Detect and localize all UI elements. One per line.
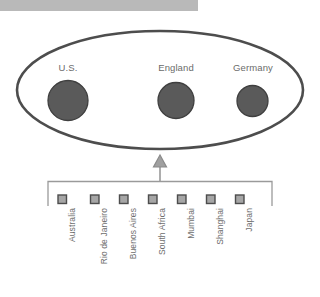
node-circle-germany[interactable] <box>237 86 268 117</box>
node-label-us: U.S. <box>59 62 78 73</box>
city-label-buenos-aires: Buenos Aires <box>128 208 138 259</box>
node-circle-england[interactable] <box>158 83 194 119</box>
node-label-england: England <box>158 62 194 73</box>
city-marker-australia[interactable] <box>58 195 67 204</box>
city-label-australia: Australia <box>67 208 77 242</box>
city-marker-south-africa[interactable] <box>149 195 158 204</box>
city-label-japan: Japan <box>244 208 254 232</box>
city-label-south-africa: South Africa <box>157 208 167 255</box>
city-marker-buenos-aires[interactable] <box>120 195 129 204</box>
city-marker-japan[interactable] <box>236 195 245 204</box>
connector-arrow-head <box>154 155 167 167</box>
city-marker-mumbai[interactable] <box>178 195 187 204</box>
city-marker-rio-de-janeiro[interactable] <box>91 195 100 204</box>
city-label-mumbai: Mumbai <box>186 208 196 239</box>
city-markers <box>58 195 244 204</box>
city-marker-shanghai[interactable] <box>207 195 216 204</box>
node-label-germany: Germany <box>233 62 273 73</box>
diagram-canvas: U.S. England Germany Australia Rio de Ja… <box>0 0 320 297</box>
city-label-rio-de-janeiro: Rio de Janeiro <box>99 208 109 264</box>
node-circle-us[interactable] <box>48 81 88 121</box>
city-label-shanghai: Shanghai <box>215 208 225 245</box>
